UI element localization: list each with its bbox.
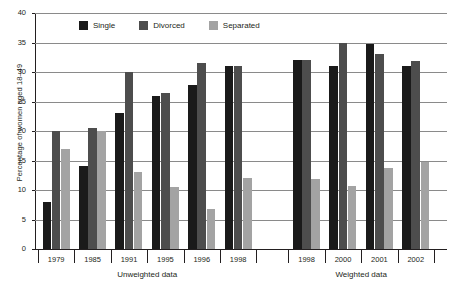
x-tick-mark <box>288 249 289 263</box>
y-tick-label: 0 <box>4 245 26 253</box>
y-tick-label: 30 <box>4 68 26 76</box>
bar-single[interactable] <box>402 66 411 249</box>
bar-single[interactable] <box>225 66 234 249</box>
bar-separated[interactable] <box>243 178 252 249</box>
bar-divorced[interactable] <box>234 66 243 249</box>
bar-group <box>38 13 74 249</box>
bar-single[interactable] <box>188 85 197 249</box>
bar-divorced[interactable] <box>375 54 384 249</box>
bar-single[interactable] <box>329 66 338 249</box>
bar-divorced[interactable] <box>339 43 348 250</box>
bar-divorced[interactable] <box>161 93 170 249</box>
bars-layer <box>35 13 447 249</box>
bar-separated[interactable] <box>348 186 357 249</box>
bar-divorced[interactable] <box>411 61 420 249</box>
y-tick-label: 15 <box>4 157 26 165</box>
x-tick-label: 1985 <box>73 255 113 264</box>
y-tick-label: 10 <box>4 186 26 194</box>
y-tick-label: 35 <box>4 39 26 47</box>
x-tick-label: 1996 <box>182 255 222 264</box>
bar-divorced[interactable] <box>197 63 206 249</box>
bar-single[interactable] <box>79 166 88 249</box>
bar-separated[interactable] <box>311 179 320 249</box>
bar-single[interactable] <box>293 60 302 249</box>
x-tick-mark <box>434 249 435 263</box>
x-tick-label: 1979 <box>36 255 76 264</box>
bar-separated[interactable] <box>134 172 143 249</box>
bar-single[interactable] <box>152 96 161 249</box>
bar-single[interactable] <box>115 113 124 249</box>
bar-single[interactable] <box>366 44 375 249</box>
bar-chart: Percentage of women aged 18–49 SingleDiv… <box>0 0 455 287</box>
bar-separated[interactable] <box>97 131 106 249</box>
x-tick-label: 1995 <box>145 255 185 264</box>
bar-group <box>74 13 110 249</box>
y-tick-label: 25 <box>4 98 26 106</box>
bar-group <box>220 13 256 249</box>
bar-group <box>147 13 183 249</box>
x-tick-label: 2002 <box>396 255 436 264</box>
y-tick-label: 40 <box>4 9 26 17</box>
y-tick-label: 20 <box>4 127 26 135</box>
x-tick-label: 2000 <box>323 255 363 264</box>
bar-group <box>325 13 361 249</box>
bar-divorced[interactable] <box>302 60 311 249</box>
x-tick-mark <box>256 249 257 263</box>
bar-separated[interactable] <box>421 162 430 249</box>
bar-divorced[interactable] <box>125 72 134 249</box>
bar-divorced[interactable] <box>52 131 61 249</box>
x-tick-label: 2001 <box>359 255 399 264</box>
plot-area <box>35 13 447 249</box>
x-axis: 1979198519911995199619981998200020012002… <box>35 249 447 287</box>
bar-group <box>361 13 397 249</box>
x-tick-label: 1998 <box>287 255 327 264</box>
bar-divorced[interactable] <box>88 128 97 249</box>
bar-group <box>398 13 434 249</box>
x-tick-label: 1998 <box>218 255 258 264</box>
bar-separated[interactable] <box>61 149 70 249</box>
y-tick-label: 5 <box>4 216 26 224</box>
bar-separated[interactable] <box>170 187 179 249</box>
bar-separated[interactable] <box>207 209 216 249</box>
bar-group <box>184 13 220 249</box>
panel-label-weighted: Weighted data <box>281 270 441 279</box>
bar-group <box>111 13 147 249</box>
bar-single[interactable] <box>43 202 52 249</box>
panel-label-unweighted: Unweighted data <box>67 270 227 279</box>
x-tick-label: 1991 <box>109 255 149 264</box>
bar-separated[interactable] <box>384 168 393 249</box>
bar-group <box>288 13 324 249</box>
y-axis-label: Percentage of women aged 18–49 <box>15 38 24 208</box>
